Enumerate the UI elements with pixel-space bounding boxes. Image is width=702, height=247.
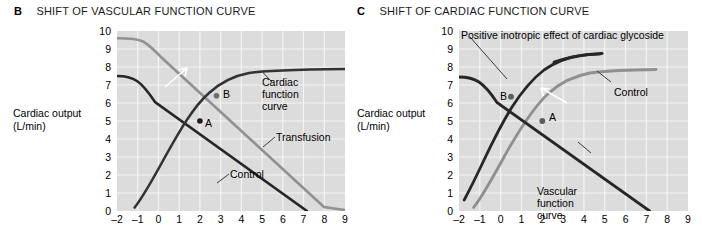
plot-area-b [117, 31, 345, 211]
point-label-a-b: A [205, 118, 212, 128]
point-b-marker-b [214, 93, 220, 99]
x-tick-b-4: 4 [233, 214, 249, 224]
leader-inotropic-c [470, 37, 507, 79]
y-tick-b-8: 8 [95, 62, 111, 72]
plot-area-c [459, 31, 688, 211]
y-tick-c-5: 5 [437, 116, 453, 126]
y-tick-c-1: 1 [437, 188, 453, 198]
curve-inotropic-plateau-c [554, 54, 601, 62]
panel-c-header: C SHIFT OF CARDIAC FUNCTION CURVE [357, 5, 589, 23]
x-tick-b--1: –1 [130, 214, 146, 224]
point-a-marker-b [197, 118, 203, 124]
y-tick-b-2: 2 [95, 170, 111, 180]
y-tick-c-3: 3 [437, 152, 453, 162]
x-tick-c--1: –1 [472, 214, 488, 224]
panel-b-letter: B [14, 5, 22, 17]
y-tick-b-5: 5 [95, 116, 111, 126]
label-inotropic-c: Positive inotropic effect of cardiac gly… [461, 30, 664, 41]
x-tick-c-9: 9 [680, 214, 696, 224]
y-tick-c-4: 4 [437, 134, 453, 144]
x-tick-b-3: 3 [213, 214, 229, 224]
panel-c-letter: C [357, 5, 365, 17]
y-tick-b-4: 4 [95, 134, 111, 144]
panel-b-title: SHIFT OF VASCULAR FUNCTION CURVE [36, 5, 255, 17]
x-tick-c-1: 1 [514, 214, 530, 224]
label-transfusion-b: Transfusion [276, 131, 330, 143]
panel-vascular-function-shift: B SHIFT OF VASCULAR FUNCTION CURVE Cardi… [0, 0, 351, 247]
x-tick-c-7: 7 [638, 214, 654, 224]
curve-transfusion [117, 38, 345, 210]
y-tick-b-9: 9 [95, 44, 111, 54]
x-tick-c-4: 4 [576, 214, 592, 224]
label-vascular-function-curve-c: Vascular function curve [537, 185, 577, 221]
x-tick-b-2: 2 [192, 214, 208, 224]
y-tick-c-2: 2 [437, 170, 453, 180]
point-a-marker-c [539, 118, 545, 124]
x-tick-c-5: 5 [597, 214, 613, 224]
point-label-b-b: B [223, 89, 230, 99]
y-axis-label-b: Cardiac output (L/min) [13, 107, 81, 133]
y-axis-label-c: Cardiac output (L/min) [357, 107, 425, 133]
y-tick-c-6: 6 [437, 98, 453, 108]
label-control-c: Control [614, 86, 648, 98]
point-label-a-c: A [549, 112, 556, 122]
x-tick-b-6: 6 [275, 214, 291, 224]
x-tick-c-6: 6 [618, 214, 634, 224]
y-tick-c-10: 10 [437, 26, 453, 36]
x-tick-c-0: 0 [493, 214, 509, 224]
y-tick-b-1: 1 [95, 188, 111, 198]
y-tick-c-8: 8 [437, 62, 453, 72]
y-tick-b-10: 10 [95, 26, 111, 36]
x-tick-b-8: 8 [316, 214, 332, 224]
y-tick-b-3: 3 [95, 152, 111, 162]
point-label-b-c: B [500, 91, 507, 101]
x-tick-b-5: 5 [254, 214, 270, 224]
panel-b-header: B SHIFT OF VASCULAR FUNCTION CURVE [14, 5, 256, 23]
x-tick-b-0: 0 [151, 214, 167, 224]
panel-c-title: SHIFT OF CARDIAC FUNCTION CURVE [379, 5, 589, 17]
x-tick-c-8: 8 [659, 214, 675, 224]
y-tick-b-7: 7 [95, 80, 111, 90]
plot-c-svg [459, 31, 688, 211]
x-tick-b-7: 7 [296, 214, 312, 224]
x-tick-c--2: –2 [451, 214, 467, 224]
x-tick-b--2: –2 [109, 214, 125, 224]
point-b-marker-c [508, 94, 514, 100]
label-cardiac-function-curve-b: Cardiac function curve [262, 76, 299, 112]
label-control-b: Control [230, 168, 264, 180]
x-tick-b-1: 1 [171, 214, 187, 224]
plot-b-svg [117, 31, 345, 211]
y-tick-b-6: 6 [95, 98, 111, 108]
y-tick-c-9: 9 [437, 44, 453, 54]
y-tick-c-7: 7 [437, 80, 453, 90]
